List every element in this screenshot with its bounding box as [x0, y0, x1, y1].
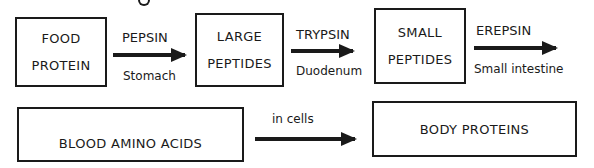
blood-amino-acids-label: BLOOD AMINO ACIDS — [59, 137, 202, 150]
body-proteins-label: BODY PROTEINS — [420, 123, 529, 136]
in-cells-label: in cells — [272, 112, 314, 126]
erepsin-label: EREPSIN — [476, 23, 531, 38]
large-peptides-line2: PEPTIDES — [207, 57, 272, 70]
pepsin-label: PEPSIN — [122, 30, 168, 45]
cropped-text-fragment — [138, 0, 150, 6]
small-peptides-line1: SMALL — [398, 26, 442, 39]
small-peptides-box: SMALL PEPTIDES — [374, 8, 466, 84]
small-intestine-label: Small intestine — [474, 62, 563, 76]
food-protein-box: FOOD PROTEIN — [15, 17, 107, 87]
trypsin-label: TRYPSIN — [296, 27, 350, 42]
stomach-label: Stomach — [123, 69, 176, 83]
large-peptides-line1: LARGE — [217, 30, 262, 43]
small-peptides-line2: PEPTIDES — [388, 53, 453, 66]
food-protein-line1: FOOD — [41, 32, 80, 45]
pepsin-arrow — [113, 53, 185, 57]
trypsin-arrow — [291, 49, 353, 53]
duodenum-label: Duodenum — [296, 64, 362, 78]
blood-amino-acids-box: BLOOD AMINO ACIDS — [17, 107, 244, 162]
large-peptides-box: LARGE PEPTIDES — [195, 13, 284, 87]
erepsin-arrow — [474, 46, 556, 50]
in-cells-arrow — [255, 137, 355, 141]
body-proteins-box: BODY PROTEINS — [372, 101, 577, 157]
food-protein-line2: PROTEIN — [32, 59, 91, 72]
